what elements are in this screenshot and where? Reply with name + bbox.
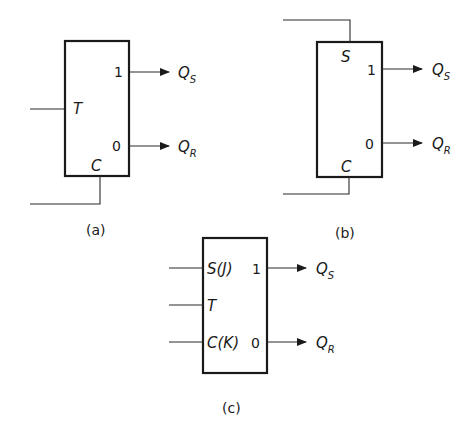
flip-flop-c: S(J) T C(K) 1 QS 0 QR (c) — [169, 238, 335, 416]
flip-flop-b-output-0-label: 0 — [365, 136, 374, 152]
flip-flop-a-qr-label: QR — [178, 138, 197, 159]
flip-flop-c-qs-label: QS — [316, 260, 335, 281]
flip-flop-b-qs-label: QS — [432, 61, 451, 82]
flip-flop-c-sj-label: S(J) — [207, 260, 233, 278]
flip-flop-a-t-label: T — [73, 100, 84, 118]
flip-flop-a-output-0-label: 0 — [112, 138, 121, 154]
flip-flop-c-output-0-label: 0 — [251, 335, 260, 351]
flip-flop-b: S C 1 QS 0 QR (b) — [283, 20, 451, 241]
flip-flop-c-caption: (c) — [222, 400, 241, 416]
flip-flop-a-output-1-label: 1 — [114, 64, 123, 80]
flip-flop-c-qr-label: QR — [316, 334, 335, 355]
flip-flop-a-caption: (a) — [86, 222, 106, 238]
flip-flop-b-c-input-wire — [283, 177, 349, 194]
flip-flop-a-c-label: C — [91, 157, 102, 175]
flip-flop-a: T C 1 QS 0 QR (a) — [30, 41, 197, 238]
flip-flop-b-output-1-label: 1 — [367, 62, 376, 78]
flip-flop-diagrams: T C 1 QS 0 QR (a) S C 1 QS 0 QR (b) — [0, 0, 474, 438]
flip-flop-a-c-input-wire — [30, 176, 100, 204]
flip-flop-b-s-label: S — [341, 48, 351, 66]
flip-flop-a-qs-label: QS — [178, 64, 197, 85]
flip-flop-c-t-label: T — [207, 297, 218, 315]
flip-flop-b-caption: (b) — [335, 225, 355, 241]
flip-flop-b-c-label: C — [341, 158, 352, 176]
flip-flop-c-ck-label: C(K) — [207, 334, 239, 352]
flip-flop-b-qr-label: QR — [432, 135, 451, 156]
flip-flop-b-s-input-wire — [283, 20, 350, 42]
flip-flop-c-output-1-label: 1 — [252, 261, 261, 277]
